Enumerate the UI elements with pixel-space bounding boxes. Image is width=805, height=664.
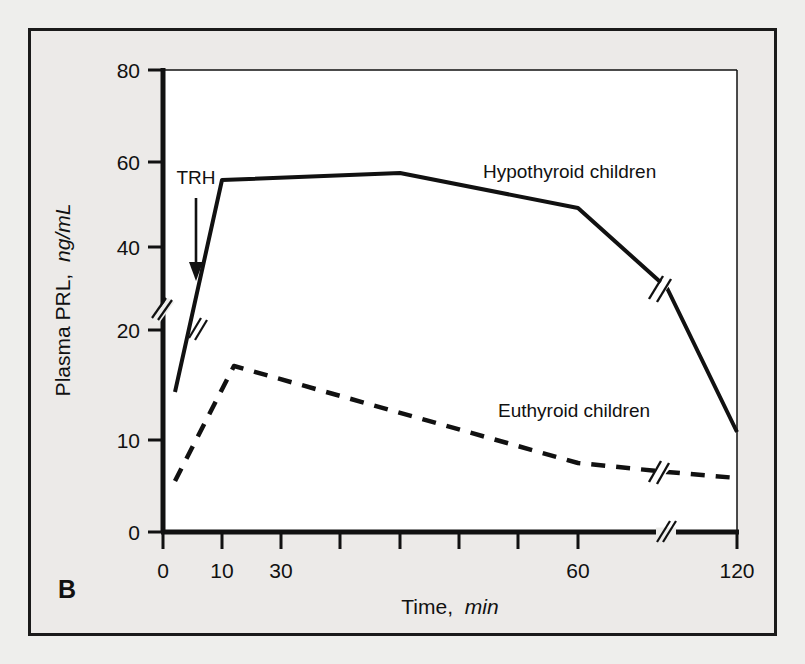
x-tick-label-120: 120 — [719, 559, 754, 582]
x-tick-label-60: 60 — [566, 559, 589, 582]
y-tick-label-40: 40 — [117, 236, 140, 259]
series-label-euthyroid: Euthyroid children — [498, 400, 650, 421]
figure-panel: 80 60 40 20 10 0 0 10 30 60 120 Time, mi… — [0, 0, 805, 664]
plot-area — [163, 70, 737, 532]
y-axis-title-main: Plasma PRL, — [51, 274, 74, 397]
x-tick-label-10: 10 — [210, 559, 233, 582]
x-tick-marks — [163, 532, 737, 549]
x-tick-label-0: 0 — [157, 559, 169, 582]
y-tick-label-60: 60 — [117, 151, 140, 174]
x-axis-title-unit: min — [465, 595, 499, 618]
panel-label: B — [58, 575, 76, 603]
y-axis-title-unit: ng/mL — [51, 204, 74, 262]
y-tick-label-80: 80 — [117, 59, 140, 82]
y-axis-title: Plasma PRL, ng/mL — [51, 204, 74, 397]
trh-annotation-label: TRH — [176, 167, 215, 188]
y-tick-label-0: 0 — [128, 521, 140, 544]
x-axis-title-main: Time, — [401, 595, 453, 618]
x-tick-label-30: 30 — [269, 559, 292, 582]
x-axis-title: Time, min — [401, 595, 498, 618]
y-tick-label-20: 20 — [117, 319, 140, 342]
y-tick-label-10: 10 — [117, 429, 140, 452]
chart-canvas: 80 60 40 20 10 0 0 10 30 60 120 Time, mi… — [0, 0, 805, 664]
series-label-hypothyroid: Hypothyroid children — [483, 161, 656, 182]
